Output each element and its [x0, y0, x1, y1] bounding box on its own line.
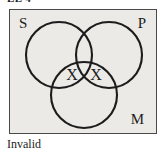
x-mark-left: X: [66, 66, 78, 83]
set-label-P: P: [138, 16, 146, 31]
set-label-M: M: [131, 112, 144, 127]
circle-S: [26, 22, 92, 88]
set-label-S: S: [19, 16, 27, 31]
circle-M: [51, 62, 117, 128]
figure-header-text: EE 4: [7, 0, 31, 3]
x-mark-right: X: [90, 66, 102, 83]
circle-P: [76, 22, 142, 88]
figure-caption: Invalid: [7, 137, 41, 151]
venn-diagram-figure: EE 4 X X S P M Invalid: [0, 0, 166, 155]
venn-diagram-box: X X S P M: [9, 9, 157, 134]
